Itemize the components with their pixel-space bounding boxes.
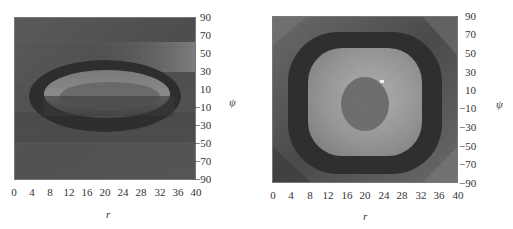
y-tick: 30 bbox=[465, 67, 476, 78]
y-tick: −90 bbox=[459, 178, 476, 189]
y-tick: 70 bbox=[465, 29, 476, 40]
x-tick: 20 bbox=[360, 190, 371, 201]
y-tick: 10 bbox=[465, 85, 476, 96]
y-tick: 50 bbox=[465, 48, 476, 59]
y-tick: 90 bbox=[465, 11, 476, 22]
x-tick: 36 bbox=[434, 190, 445, 201]
x-tick: 4 bbox=[288, 190, 294, 201]
x-tick: 8 bbox=[307, 190, 313, 201]
x-tick: 0 bbox=[270, 190, 276, 201]
right-x-label: r bbox=[363, 210, 367, 222]
right-contour-plot bbox=[272, 16, 458, 183]
y-tick: −30 bbox=[459, 122, 476, 133]
right-chart-panel: 90 70 50 30 10 −10 −30 −50 −70 −90 ψ 0 4… bbox=[0, 0, 513, 229]
x-tick: 24 bbox=[379, 190, 390, 201]
right-plot-svg bbox=[272, 16, 458, 183]
x-tick: 16 bbox=[342, 190, 353, 201]
x-tick: 12 bbox=[323, 190, 334, 201]
x-tick: 32 bbox=[416, 190, 427, 201]
y-tick: −50 bbox=[459, 141, 476, 152]
right-y-label: ψ bbox=[496, 98, 503, 110]
y-tick: −70 bbox=[459, 159, 476, 170]
x-tick: 28 bbox=[397, 190, 408, 201]
x-tick: 40 bbox=[453, 190, 464, 201]
y-tick: −10 bbox=[459, 103, 476, 114]
